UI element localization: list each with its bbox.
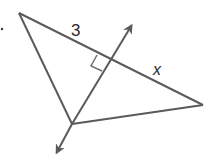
perpendicular-bisector [72, 28, 130, 124]
label-segment-3: 3 [71, 21, 80, 40]
perpendicular-bisector-extension [58, 124, 72, 150]
triangle-side-left [19, 13, 72, 124]
geometry-diagram: 3 x [0, 0, 218, 163]
stray-dot [1, 28, 3, 30]
right-angle-marker [91, 55, 102, 71]
label-segment-x: x [152, 61, 162, 78]
triangle-side-bottom [72, 105, 203, 124]
